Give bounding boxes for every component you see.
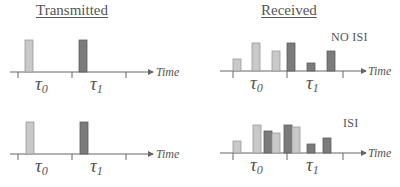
received-pulse-symbol-1 [327,51,335,71]
time-axis-label: Time [368,146,392,160]
tau-0-label: τ0 [35,155,48,178]
received-pulse-symbol-0 [233,59,241,71]
received-pulse-symbol-0 [233,141,241,153]
received-pulse-symbol-0 [272,51,280,71]
received-isi-panel: Time τ0 τ1 [220,125,392,177]
pulse-symbol-1 [80,122,88,154]
time-axis-label: Time [156,65,180,79]
received-pulse-symbol-0-overlap [292,127,300,153]
received-pulse-symbol-0 [272,133,280,153]
transmitted-bottom-panel: Time τ0 τ1 [10,122,180,178]
pulse-symbol-0 [26,122,34,154]
received-pulse-symbol-1 [323,138,331,153]
tau-0-label: τ0 [250,72,263,95]
tau-0-label: τ0 [35,73,48,96]
time-axis-label: Time [368,64,392,78]
tau-1-label: τ1 [90,73,103,96]
tau-1-label: τ1 [90,155,103,178]
received-pulse-symbol-0 [252,43,260,71]
time-axis-label: Time [156,147,180,161]
tau-1-label: τ1 [306,154,319,177]
tau-0-label: τ0 [250,154,263,177]
received-pulse-symbol-1 [284,125,292,153]
received-pulse-symbol-0 [253,125,261,153]
pulse-symbol-1 [79,40,87,72]
received-pulse-symbol-1 [287,43,295,71]
pulse-symbol-0 [25,40,33,72]
received-pulse-symbol-1-overlap [264,131,272,153]
received-pulse-symbol-1 [307,63,315,71]
received-pulse-symbol-1 [307,144,315,153]
isi-diagram: Time τ0 τ1 Time τ0 τ1 Time τ0 τ1 [0,0,400,187]
received-no-isi-panel: Time τ0 τ1 [220,43,392,95]
transmitted-top-panel: Time τ0 τ1 [10,40,180,96]
tau-1-label: τ1 [306,72,319,95]
